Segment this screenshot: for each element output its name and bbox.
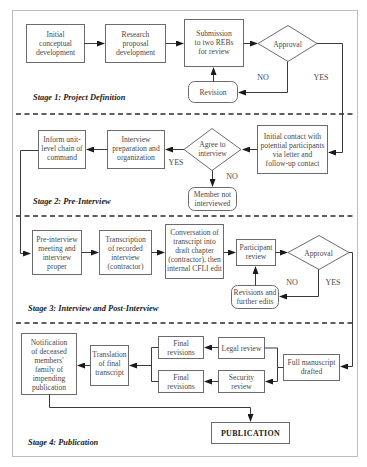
node-translation-final-transcript: Translationof finaltranscript [91, 346, 129, 386]
node-pre-interview-meeting: Pre-interviewmeeting andinterviewproper [33, 231, 82, 275]
svg-text:Notificationof deceasedmembers: Notificationof deceasedmembers'family of… [31, 338, 68, 392]
svg-text:Submissionto two REBsfor revie: Submissionto two REBsfor review [195, 29, 234, 56]
svg-text:Approval: Approval [304, 249, 333, 258]
node-security-review: Securityreview [219, 371, 265, 393]
stage-4-title: Stage 4: Publication [28, 438, 99, 447]
node-inform-unit-level: Inform unit-level chain ofcommand [39, 131, 86, 169]
node-revision: Revision [189, 82, 238, 103]
svg-text:Securityreview: Securityreview [229, 373, 255, 391]
svg-text:PUBLICATION: PUBLICATION [221, 429, 280, 438]
svg-text:Agree tointerview: Agree tointerview [198, 140, 227, 158]
node-publication: PUBLICATION [212, 423, 290, 444]
svg-text:Approval: Approval [273, 40, 302, 49]
node-full-manuscript-drafted: Full manuscriptdrafted [284, 355, 340, 381]
node-initial-conceptual-development: Initialconceptualdevelopment [27, 25, 85, 63]
node-member-not-interviewed: Member notinterviewed [189, 188, 237, 211]
node-notification-deceased-family: Notificationof deceasedmembers'family of… [22, 334, 77, 395]
svg-text:Revisions andfurther edits: Revisions andfurther edits [234, 288, 277, 306]
stage-1-title: Stage 1: Project Definition [33, 93, 126, 102]
stage-2-title: Stage 2: Pre-Interview [33, 197, 111, 206]
node-transcription: Transcriptionof recordedinterview(contra… [100, 231, 152, 275]
label-yes: YES [168, 158, 183, 167]
label-no: NO [286, 278, 298, 287]
node-final-revisions-1: Finalrevisions [159, 337, 204, 359]
node-submission-to-rebs: Submissionto two REBsfor review [185, 20, 244, 67]
node-conversation-to-draft: Conversation oftranscript intodraft chap… [166, 225, 224, 279]
node-revisions-further-edits: Revisions andfurther edits [232, 286, 279, 309]
label-no: NO [257, 73, 269, 82]
svg-text:Revision: Revision [199, 88, 226, 97]
svg-text:Inform unit-level chain ofcomm: Inform unit-level chain ofcommand [41, 135, 83, 162]
flowchart: Initialconceptualdevelopment Researchpro… [0, 0, 367, 467]
node-legal-review: Legal review [219, 338, 265, 359]
svg-text:Member notinterviewed: Member notinterviewed [194, 190, 232, 208]
label-yes: YES [325, 278, 340, 287]
node-participant-review: Participantreview [237, 240, 276, 266]
svg-text:Legal review: Legal review [222, 344, 262, 353]
node-research-proposal-development: Researchproposaldevelopment [106, 25, 166, 63]
node-final-revisions-2: Finalrevisions [159, 371, 204, 393]
stage-3-title: Stage 3: Interview and Post-Interview [28, 304, 159, 313]
label-yes: YES [313, 73, 328, 82]
label-no: NO [226, 172, 238, 181]
node-initial-contact: Initial contact withpotential participan… [258, 126, 328, 174]
node-interview-preparation: Interviewpreparation andorganization [108, 131, 165, 169]
